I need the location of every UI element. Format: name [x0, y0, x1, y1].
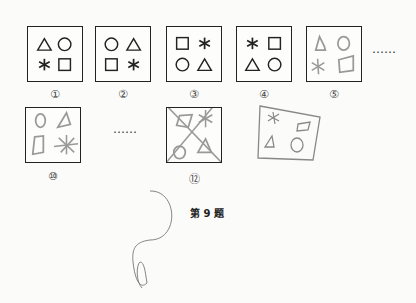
circle-icon	[338, 37, 350, 51]
circle-icon	[176, 58, 189, 71]
square-icon	[297, 122, 310, 131]
square-icon	[269, 38, 281, 50]
panel-1-label: ①	[45, 88, 65, 101]
triangle-icon	[198, 59, 212, 71]
triangle-icon	[246, 59, 259, 71]
panel-12-shapes	[167, 108, 221, 162]
panel-3-shapes	[167, 27, 221, 81]
cross-out-mark	[167, 108, 221, 162]
square-icon	[339, 56, 353, 72]
square-icon	[177, 38, 189, 50]
panel-12-label: ⑫	[184, 170, 204, 186]
asterisk-icon	[247, 38, 258, 50]
circle-icon	[58, 38, 71, 51]
ellipsis-row-2: ……	[113, 122, 137, 136]
panel-3-label: ③	[184, 88, 204, 101]
panel-12	[166, 107, 222, 163]
asterisk-icon	[128, 59, 139, 71]
panel-2-label: ②	[113, 88, 133, 101]
panel-4	[236, 26, 292, 82]
circle-icon	[36, 114, 46, 128]
panel-2	[95, 26, 151, 82]
asterisk-icon	[39, 59, 50, 71]
asterisk-icon	[312, 59, 325, 74]
panel-5-shapes	[307, 27, 361, 81]
triangle-icon	[38, 39, 52, 51]
panel-10	[25, 107, 81, 163]
panel-5-label: ⑤	[324, 88, 344, 101]
panel-3	[166, 26, 222, 82]
panel-1-shapes	[28, 27, 82, 81]
panel-4-label: ④	[254, 88, 274, 101]
panel-4-shapes	[237, 27, 291, 81]
triangle-icon	[265, 136, 274, 147]
panel-2-shapes	[96, 27, 150, 81]
ellipsis-row-1: ……	[372, 42, 396, 56]
circle-icon	[268, 58, 281, 71]
panel-10-shapes	[26, 108, 80, 162]
circle-icon	[105, 38, 118, 51]
square-icon	[59, 59, 71, 71]
triangle-icon	[58, 113, 71, 127]
circle-icon	[291, 138, 303, 152]
triangle-icon	[316, 37, 326, 51]
square-icon	[177, 115, 192, 128]
asterisk-icon	[268, 112, 279, 124]
asterisk-icon	[199, 110, 213, 127]
square-icon	[33, 136, 44, 154]
panel-10-label: ⑩	[43, 170, 63, 183]
asterisk-icon	[199, 38, 210, 50]
triangle-icon	[127, 39, 141, 51]
asterisk-icon	[54, 135, 78, 154]
figure-caption: 第 9 题	[190, 205, 224, 220]
panel-1	[27, 26, 83, 82]
panel-5	[306, 26, 362, 82]
square-icon	[106, 59, 118, 71]
